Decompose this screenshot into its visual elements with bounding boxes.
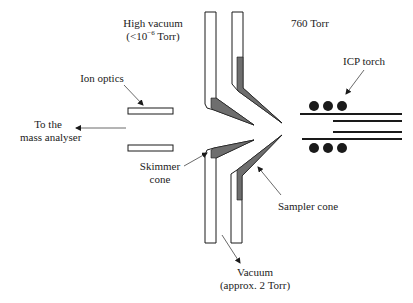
to-mass-analyser-label: To the mass analyser: [20, 118, 76, 144]
to-mass-analyser-line2: mass analyser: [20, 131, 76, 144]
sampler-arrow: [258, 167, 281, 195]
atmospheric-pressure-label: 760 Torr: [290, 17, 330, 30]
skimmer-line2: cone: [136, 173, 184, 186]
high-vacuum-line1: High vacuum: [108, 17, 198, 30]
ion-optics-upper-lens: [128, 108, 173, 114]
ion-optics-label: Ion optics: [74, 72, 130, 85]
ion-optics-lower-lens: [128, 145, 173, 151]
skimmer-line1: Skimmer: [136, 160, 184, 173]
rf-coil-lower-icon: [309, 143, 347, 153]
vacuum-label: Vacuum (approx. 2 Torr): [200, 266, 310, 292]
vacuum-line2: (approx. 2 Torr): [200, 279, 310, 292]
icp-ms-interface-diagram: High vacuum (<10−6 Torr) 760 Torr Ion op…: [0, 0, 413, 303]
skimmer-cone-label: Skimmer cone: [136, 160, 184, 186]
icp-torch-arrow: [346, 70, 364, 94]
high-vacuum-line2: (<10−6 Torr): [108, 30, 198, 43]
icp-torch: [300, 101, 402, 153]
high-vacuum-label: High vacuum (<10−6 Torr): [108, 17, 198, 43]
skimmer-arrow: [184, 153, 207, 166]
sampler-cone-upper: [232, 12, 282, 123]
skimmer-cone-lower: [205, 140, 254, 243]
diagram-drawing: [0, 0, 413, 303]
rf-coil-upper-icon: [309, 101, 347, 111]
to-mass-analyser-line1: To the: [20, 118, 76, 131]
skimmer-cone-upper: [205, 12, 254, 125]
vacuum-line1: Vacuum: [200, 266, 310, 279]
sampler-cone-lower: [231, 135, 282, 243]
sampler-cone-label: Sampler cone: [272, 200, 344, 213]
ion-optics-arrow: [124, 85, 143, 105]
icp-torch-label: ICP torch: [334, 55, 394, 68]
